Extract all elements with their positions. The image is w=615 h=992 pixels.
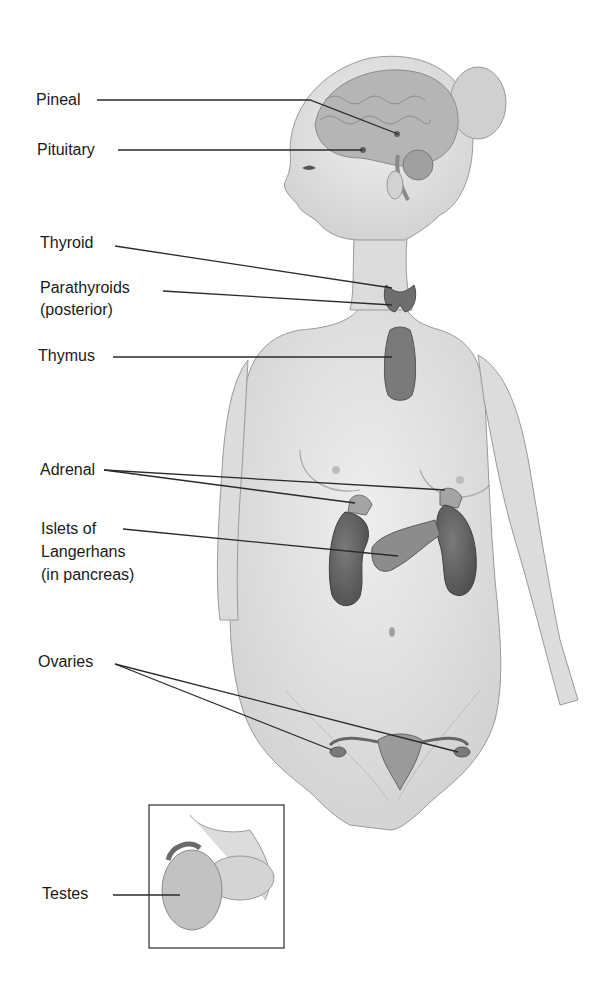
label-islets-line2: Langerhans [41,542,126,562]
testes-inset [149,805,284,948]
label-islets-line3: (in pancreas) [41,565,134,585]
ovary-left [330,747,346,757]
label-pituitary: Pituitary [37,140,95,160]
label-islets-line1: Islets of [41,519,96,539]
label-thymus: Thymus [38,346,95,366]
thymus-gland [384,327,415,400]
label-adrenal: Adrenal [40,460,95,480]
label-testes: Testes [42,884,88,904]
label-thyroid: Thyroid [40,233,93,253]
label-ovaries: Ovaries [38,652,93,672]
label-parathyroids-note: (posterior) [40,300,113,320]
label-parathyroids: Parathyroids [40,278,130,298]
head [284,56,506,240]
label-pineal: Pineal [36,90,80,110]
